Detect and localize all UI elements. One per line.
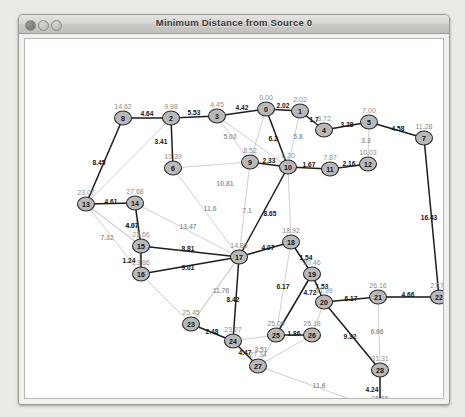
node-distance-label-13: 23.07 bbox=[77, 189, 95, 196]
tree-edge-weight-2-3: 5.53 bbox=[188, 109, 201, 116]
tree-edge-weight-8-2: 4.64 bbox=[141, 110, 154, 117]
node-distance-label-2: 9.98 bbox=[164, 103, 178, 110]
graph-node-20[interactable]: 20 bbox=[316, 295, 333, 309]
node-id-label-20: 20 bbox=[320, 299, 328, 306]
graph-node-7[interactable]: 7 bbox=[416, 131, 433, 145]
node-id-label-0: 0 bbox=[264, 106, 268, 113]
node-id-label-23: 23 bbox=[187, 321, 195, 328]
shortest-path-tree-svg: 5.0210.817.111.63.35.87.3213.474.076.661… bbox=[25, 39, 443, 398]
node-id-label-3: 3 bbox=[215, 113, 219, 120]
tree-edge-weight-23-24: 2.48 bbox=[206, 328, 219, 335]
nontree-edge-weight: 5.02 bbox=[223, 133, 236, 140]
node-distance-label-26: 25.18 bbox=[303, 320, 321, 327]
graph-node-27[interactable]: 27 bbox=[250, 359, 267, 373]
node-id-label-2: 2 bbox=[169, 115, 173, 122]
node-distance-label-4: 3.72 bbox=[317, 115, 331, 122]
graph-node-3[interactable]: 3 bbox=[209, 109, 226, 123]
node-id-label-22: 22 bbox=[435, 294, 443, 301]
tree-edge-weight-13-14: 4.61 bbox=[105, 198, 118, 205]
screenshot-root: Minimum Distance from Source 0 5.0210.81… bbox=[0, 0, 465, 417]
graph-node-9[interactable]: 9 bbox=[242, 155, 259, 169]
node-id-label-10: 10 bbox=[284, 164, 292, 171]
graph-node-22[interactable]: 22 bbox=[431, 290, 444, 304]
graph-node-25[interactable]: 25 bbox=[268, 328, 285, 342]
nontree-edge-16-23 bbox=[141, 274, 191, 324]
node-distance-label-8: 14.62 bbox=[114, 103, 132, 110]
node-id-label-11: 11 bbox=[326, 166, 334, 173]
tree-edge-weight-2-6: 3.41 bbox=[155, 138, 168, 145]
node-distance-label-17: 14.85 bbox=[230, 242, 248, 249]
nontree-edge-weight: 11.6 bbox=[313, 382, 326, 389]
graph-node-23[interactable]: 23 bbox=[183, 317, 200, 331]
tree-edge-weight-17-24: 8.42 bbox=[227, 296, 240, 303]
graph-node-21[interactable]: 21 bbox=[370, 290, 387, 304]
node-distance-label-29: 35.55 bbox=[371, 395, 389, 398]
node-id-label-18: 18 bbox=[287, 239, 295, 246]
node-distance-label-10: 6.20 bbox=[281, 152, 295, 159]
nontree-edge-weight: 11.76 bbox=[213, 287, 230, 294]
node-id-label-14: 14 bbox=[131, 200, 139, 207]
tree-edge-weight-21-22: 4.66 bbox=[402, 291, 415, 298]
graph-node-14[interactable]: 14 bbox=[127, 196, 144, 210]
window-titlebar[interactable]: Minimum Distance from Source 0 bbox=[19, 15, 449, 34]
graph-node-10[interactable]: 10 bbox=[280, 160, 297, 174]
node-id-label-8: 8 bbox=[121, 115, 125, 122]
graph-node-15[interactable]: 15 bbox=[133, 239, 150, 253]
graph-node-13[interactable]: 13 bbox=[78, 197, 95, 211]
graph-node-2[interactable]: 2 bbox=[163, 111, 180, 125]
graph-node-4[interactable]: 4 bbox=[316, 123, 333, 137]
node-id-label-5: 5 bbox=[367, 119, 371, 126]
node-distance-label-15: 23.66 bbox=[132, 231, 150, 238]
node-id-label-27: 27 bbox=[254, 363, 262, 370]
node-id-label-15: 15 bbox=[137, 243, 145, 250]
graph-node-18[interactable]: 18 bbox=[283, 235, 300, 249]
tree-edge-weight-15-17: 8.81 bbox=[182, 245, 195, 252]
graph-node-19[interactable]: 19 bbox=[304, 267, 321, 281]
node-id-label-26: 26 bbox=[308, 332, 316, 339]
graph-node-28[interactable]: 28 bbox=[372, 363, 389, 377]
node-id-label-4: 4 bbox=[322, 127, 326, 134]
nontree-edge-weight: 7.32 bbox=[100, 234, 113, 241]
graph-node-1[interactable]: 1 bbox=[292, 104, 309, 118]
node-id-label-24: 24 bbox=[229, 338, 237, 345]
node-distance-label-3: 4.45 bbox=[210, 101, 224, 108]
graph-node-12[interactable]: 12 bbox=[360, 157, 377, 171]
graph-node-8[interactable]: 8 bbox=[115, 111, 132, 125]
node-distance-label-0: 0.00 bbox=[259, 94, 273, 101]
graph-node-11[interactable]: 11 bbox=[322, 162, 339, 176]
node-id-label-7: 7 bbox=[422, 135, 426, 142]
node-id-label-28: 28 bbox=[376, 367, 384, 374]
graph-node-24[interactable]: 24 bbox=[225, 334, 242, 348]
graph-node-16[interactable]: 16 bbox=[133, 267, 150, 281]
node-distance-label-6: 13.39 bbox=[164, 153, 182, 160]
tree-edge-weight-25-26: 1.86 bbox=[288, 330, 301, 337]
tree-edge-weight-17-18: 4.07 bbox=[262, 244, 275, 251]
node-distance-label-27: 27.34 bbox=[249, 351, 267, 358]
node-id-label-17: 17 bbox=[235, 254, 243, 261]
tree-edge-weight-10-11: 1.67 bbox=[303, 161, 316, 168]
tree-edge-weight-4-5: 3.28 bbox=[341, 121, 354, 128]
window-title: Minimum Distance from Source 0 bbox=[19, 17, 449, 28]
tree-edge-weight-20-28: 9.32 bbox=[344, 333, 357, 340]
node-id-label-21: 21 bbox=[374, 294, 382, 301]
node-id-label-9: 9 bbox=[248, 159, 252, 166]
nontree-edge-weight: 6.66 bbox=[370, 328, 383, 335]
graph-node-6[interactable]: 6 bbox=[165, 161, 182, 175]
tree-edge-weight-9-10: 2.33 bbox=[263, 157, 276, 164]
graph-node-0[interactable]: 0 bbox=[258, 102, 275, 116]
tree-edge-weight-7-22: 16.43 bbox=[421, 214, 438, 221]
node-distance-label-5: 7.00 bbox=[362, 107, 376, 114]
application-window: Minimum Distance from Source 0 5.0210.81… bbox=[18, 14, 450, 405]
graph-node-26[interactable]: 26 bbox=[304, 328, 321, 342]
graph-node-17[interactable]: 17 bbox=[231, 250, 248, 264]
tree-edge-weight-13-8: 8.45 bbox=[93, 159, 106, 166]
nontree-edge-weight: 10.81 bbox=[216, 180, 233, 187]
tree-edge-weight-19-25: 6.17 bbox=[277, 283, 290, 290]
graph-canvas[interactable]: 5.0210.817.111.63.35.87.3213.474.076.661… bbox=[24, 38, 444, 399]
node-distance-label-19: 20.46 bbox=[303, 259, 321, 266]
graph-node-5[interactable]: 5 bbox=[361, 115, 378, 129]
node-distance-label-11: 7.87 bbox=[323, 154, 337, 161]
node-id-label-6: 6 bbox=[171, 165, 175, 172]
node-distance-label-9: 8.52 bbox=[243, 147, 257, 154]
node-id-label-1: 1 bbox=[298, 108, 302, 115]
